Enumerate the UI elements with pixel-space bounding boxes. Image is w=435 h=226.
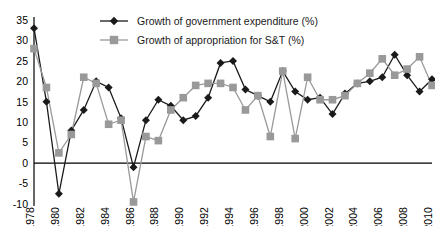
- data-point-marker: [242, 106, 250, 114]
- y-tick-label: 20: [16, 75, 28, 87]
- y-tick-label: 15: [16, 96, 28, 108]
- y-tick-label: 35: [16, 14, 28, 26]
- data-point-marker: [80, 73, 88, 81]
- data-point-marker: [105, 120, 113, 128]
- x-tick-label: 1978: [24, 207, 36, 226]
- series-markers: [30, 24, 435, 206]
- x-axis-tick-labels: 1978198019821984198619881990199219941996…: [24, 207, 434, 226]
- data-point-marker: [30, 24, 38, 32]
- x-tick-label: 1980: [49, 207, 61, 226]
- data-point-marker: [155, 137, 163, 145]
- chart-legend: Growth of government expenditure (%)Grow…: [100, 15, 318, 46]
- data-point-marker: [266, 98, 274, 106]
- legend-marker-diamond: [110, 17, 118, 25]
- x-tick-label: 1984: [99, 207, 111, 226]
- x-tick-label: 1986: [124, 207, 136, 226]
- data-point-marker: [416, 53, 424, 61]
- data-point-marker: [428, 82, 435, 90]
- data-point-marker: [304, 73, 312, 81]
- data-point-marker: [130, 163, 138, 171]
- x-tick-label: 1990: [173, 207, 185, 226]
- x-tick-label: 1994: [223, 207, 235, 226]
- data-point-marker: [68, 131, 76, 139]
- data-point-marker: [204, 94, 212, 102]
- data-point-marker: [291, 135, 299, 143]
- y-tick-label: 10: [16, 116, 28, 128]
- x-tick-label: 1988: [148, 207, 160, 226]
- data-point-marker: [241, 86, 249, 94]
- data-point-marker: [378, 73, 386, 81]
- data-point-marker: [217, 80, 225, 88]
- data-point-marker: [92, 80, 100, 88]
- data-point-marker: [142, 116, 150, 124]
- x-tick-label: 2004: [347, 207, 359, 226]
- y-tick-label: 25: [16, 55, 28, 67]
- data-point-marker: [366, 69, 374, 77]
- data-point-marker: [43, 84, 51, 92]
- legend-label: Growth of government expenditure (%): [137, 15, 318, 27]
- data-point-marker: [229, 84, 237, 92]
- data-point-marker: [167, 106, 175, 114]
- data-point-marker: [55, 190, 63, 198]
- legend-label: Growth of appropriation for S&T (%): [137, 34, 304, 46]
- data-point-marker: [204, 80, 212, 88]
- data-point-marker: [179, 94, 187, 102]
- data-point-marker: [55, 149, 63, 157]
- data-point-marker: [391, 71, 399, 79]
- data-point-marker: [354, 80, 362, 88]
- x-tick-label: 1982: [74, 207, 86, 226]
- chart-container: -10-505101520253035 19781980198219841986…: [0, 0, 435, 226]
- data-point-marker: [142, 133, 150, 141]
- data-point-marker: [105, 83, 113, 91]
- y-tick-label: 5: [22, 136, 28, 148]
- x-tick-label: 1998: [273, 207, 285, 226]
- data-point-marker: [378, 55, 386, 63]
- y-tick-label: 0: [22, 157, 28, 169]
- data-point-marker: [154, 96, 162, 104]
- data-point-marker: [267, 133, 275, 141]
- x-tick-label: 1992: [198, 207, 210, 226]
- x-tick-label: 1996: [248, 207, 260, 226]
- data-point-marker: [329, 96, 337, 104]
- x-tick-label: 2000: [298, 207, 310, 226]
- data-point-marker: [366, 77, 374, 85]
- data-point-marker: [130, 198, 138, 206]
- data-point-marker: [291, 88, 299, 96]
- data-point-marker: [403, 65, 411, 73]
- line-chart: -10-505101520253035 19781980198219841986…: [0, 0, 435, 226]
- data-point-marker: [30, 45, 38, 53]
- y-axis-tick-labels: -10-505101520253035: [13, 14, 28, 210]
- data-point-marker: [279, 67, 287, 75]
- data-point-marker: [391, 51, 399, 59]
- data-point-marker: [341, 92, 349, 100]
- x-tick-label: 2010: [422, 207, 434, 226]
- legend-marker-square: [110, 36, 118, 44]
- series-line-1: [34, 28, 432, 194]
- y-tick-label: 30: [16, 34, 28, 46]
- data-point-marker: [192, 82, 200, 90]
- data-point-marker: [217, 59, 225, 67]
- x-tick-label: 2002: [323, 207, 335, 226]
- data-point-marker: [80, 106, 88, 114]
- data-point-marker: [254, 92, 262, 100]
- data-point-marker: [304, 96, 312, 104]
- x-tick-label: 2008: [397, 207, 409, 226]
- data-point-marker: [316, 96, 324, 104]
- data-point-marker: [229, 57, 237, 65]
- x-tick-label: 2006: [372, 207, 384, 226]
- series-lines: [34, 28, 432, 202]
- y-tick-label: -5: [19, 177, 28, 189]
- data-point-marker: [117, 116, 125, 124]
- data-point-marker: [192, 112, 200, 120]
